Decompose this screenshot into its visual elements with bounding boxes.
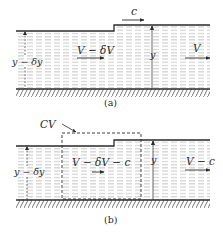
wave-speed-label-a: c <box>131 5 137 18</box>
control-volume-label: CV <box>40 118 57 130</box>
channel-bed-hatch-b <box>16 200 210 208</box>
right-depth-label-b: y <box>150 154 157 165</box>
left-velocity-label-b: V − δV − c <box>72 156 130 168</box>
control-volume-pointer-arrow <box>62 124 76 132</box>
panel-a: c y − δy y V − δV V (a) <box>11 5 210 108</box>
left-depth-label-b: y − δy <box>13 166 45 177</box>
figure: c y − δy y V − δV V (a) CV y − δy <box>0 0 223 234</box>
right-velocity-label-b: V − c <box>186 155 215 167</box>
right-depth-label-a: y <box>149 49 156 60</box>
left-depth-label-a: y − δy <box>11 56 43 67</box>
water-body-b <box>16 140 210 200</box>
left-velocity-label-a: V − δV <box>77 44 115 56</box>
water-body-a <box>16 25 210 89</box>
panel-b: CV y − δy y V − δV − c V − c (b) <box>13 118 215 225</box>
channel-bed-hatch-a <box>16 89 210 97</box>
caption-b: (b) <box>104 214 118 225</box>
caption-a: (a) <box>104 97 117 108</box>
